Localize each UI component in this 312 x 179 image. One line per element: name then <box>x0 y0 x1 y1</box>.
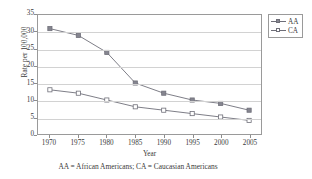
legend-item-ca: CA <box>271 26 298 35</box>
x-tick-mark <box>164 135 165 138</box>
x-tick-mark <box>250 135 251 138</box>
y-tick-label: 0 <box>18 131 34 138</box>
series-line-aa <box>50 29 249 111</box>
gridline <box>38 84 261 85</box>
gridline <box>38 119 261 120</box>
chart-legend: AA CA <box>268 14 303 38</box>
x-tick-mark <box>106 135 107 138</box>
y-tick-label: 5 <box>18 114 34 121</box>
x-axis-label: Year <box>37 150 262 158</box>
chart-caption: AA = African Americans; CA = Caucasian A… <box>0 162 276 171</box>
x-axis-ticks: 19701975198019851990199520002005 <box>37 135 262 149</box>
x-tick-mark <box>193 135 194 138</box>
legend-label: CA <box>288 27 298 35</box>
y-tick-label: 20 <box>18 62 34 69</box>
plot-area <box>37 14 262 135</box>
x-tick-mark <box>78 135 79 138</box>
data-point-aa-1975 <box>76 33 80 37</box>
y-axis-ticks: 05101520253035 <box>18 14 34 135</box>
y-tick-label: 15 <box>18 80 34 87</box>
gridline <box>38 50 261 51</box>
data-point-aa-1980 <box>105 50 109 54</box>
data-point-ca-1995 <box>190 112 194 116</box>
legend-item-aa: AA <box>271 17 298 26</box>
x-tick-mark <box>221 135 222 138</box>
legend-marker-filled-square-icon <box>271 17 286 26</box>
data-point-ca-1975 <box>76 91 80 95</box>
data-point-ca-1970 <box>48 88 52 92</box>
data-point-ca-1985 <box>133 105 137 109</box>
y-tick-label: 10 <box>18 97 34 104</box>
chart-figure: Rate per 100,000 05101520253035 19701975… <box>0 0 312 179</box>
data-point-aa-2005 <box>247 108 251 112</box>
legend-label: AA <box>288 18 298 26</box>
gridline <box>38 101 261 102</box>
gridline <box>38 67 261 68</box>
y-tick-label: 35 <box>18 10 34 17</box>
y-tick-label: 25 <box>18 45 34 52</box>
data-point-aa-1970 <box>48 27 52 31</box>
x-tick-label: 2005 <box>233 139 267 147</box>
y-tick-label: 30 <box>18 28 34 35</box>
x-tick-mark <box>135 135 136 138</box>
gridline <box>38 32 261 33</box>
x-tick-mark <box>49 135 50 138</box>
data-point-aa-1990 <box>162 91 166 95</box>
data-point-ca-1990 <box>162 108 166 112</box>
legend-marker-open-square-icon <box>271 26 286 35</box>
